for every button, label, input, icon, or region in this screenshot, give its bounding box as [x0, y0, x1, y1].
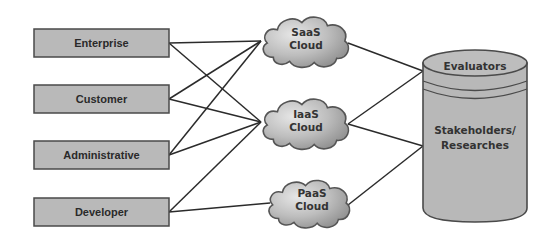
actor-label: Developer	[75, 206, 129, 218]
edge-developer-paas	[169, 203, 270, 212]
edge-enterprise-saas	[169, 41, 261, 43]
cloud-label-line1: PaaS	[297, 187, 326, 199]
actor-label: Customer	[76, 93, 128, 105]
edge-iaas-stakeholders	[348, 124, 423, 146]
cylinder-top-label: Evaluators	[444, 60, 507, 72]
edge-saas-evaluators	[348, 43, 423, 71]
actor-box-developer: Developer	[34, 198, 169, 226]
edge-customer-saas	[169, 41, 261, 99]
cloud-saas: SaaS Cloud	[263, 17, 348, 67]
cylinder-body-label-line1: Stakeholders/	[434, 124, 516, 136]
cloud-label-line2: Cloud	[289, 39, 323, 51]
cloud-label-line1: IaaS	[293, 108, 319, 120]
stakeholder-cylinder: Evaluators Stakeholders/ Researches	[423, 50, 527, 222]
actor-box-enterprise: Enterprise	[34, 29, 169, 57]
actor-box-customer: Customer	[34, 85, 169, 113]
cloud-label-line2: Cloud	[289, 121, 323, 133]
actor-label: Enterprise	[74, 37, 128, 49]
edge-developer-iaas	[169, 122, 261, 212]
cloud-label-line1: SaaS	[291, 26, 320, 38]
edge-iaas-evaluators	[348, 71, 423, 124]
diagram-canvas: Enterprise Customer Administrative Devel…	[0, 0, 552, 250]
actor-box-administrative: Administrative	[34, 141, 169, 169]
cloud-iaas: IaaS Cloud	[263, 99, 348, 149]
edge-paas-stakeholders	[348, 146, 423, 205]
cylinder-body-label-line2: Researches	[441, 139, 509, 151]
cloud-stakeholder-diagram: Enterprise Customer Administrative Devel…	[0, 0, 552, 250]
cloud-paas: PaaS Cloud	[269, 180, 350, 227]
actor-label: Administrative	[63, 149, 139, 161]
cloud-label-line2: Cloud	[295, 200, 329, 212]
